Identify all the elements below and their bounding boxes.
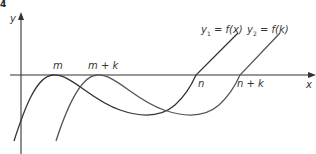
label-m: m bbox=[53, 61, 63, 71]
translation-graph: 4 y x m m + k n n + k y1 = f(x) y2 = f(k… bbox=[0, 0, 316, 154]
y-axis-label: y bbox=[10, 14, 16, 24]
x-axis-arrow-icon bbox=[308, 72, 316, 78]
curve-label-y2: y2 = f(k) bbox=[247, 25, 289, 37]
curve-label-y1: y1 = f(x) bbox=[201, 25, 243, 37]
label-n-plus-k: n + k bbox=[237, 79, 264, 89]
x-axis-label: x bbox=[306, 80, 312, 90]
curve-y1 bbox=[14, 33, 238, 141]
label-n: n bbox=[198, 79, 204, 89]
y-axis-arrow-icon bbox=[18, 12, 24, 20]
label-m-plus-k: m + k bbox=[88, 61, 118, 71]
